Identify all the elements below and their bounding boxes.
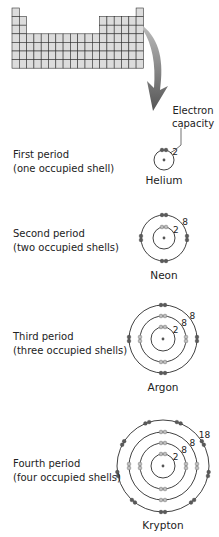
electron bbox=[163, 510, 167, 514]
nucleus-icon bbox=[163, 159, 166, 162]
electron bbox=[163, 498, 167, 502]
shell-capacity-label: 8 bbox=[181, 318, 187, 328]
shell-capacity-label: 18 bbox=[199, 430, 211, 440]
electron bbox=[164, 225, 168, 229]
shell-capacity-label: 2 bbox=[173, 225, 179, 235]
period-3-title: Third period bbox=[13, 330, 127, 344]
period-4-subtitle: (four occupied shells) bbox=[13, 471, 121, 485]
electron bbox=[159, 314, 163, 318]
electron bbox=[195, 335, 199, 339]
electron bbox=[139, 238, 143, 242]
electron bbox=[127, 339, 131, 343]
electron bbox=[159, 325, 163, 329]
electron bbox=[122, 439, 126, 443]
electron-capacity-label: Electron capacity bbox=[168, 104, 218, 130]
electron bbox=[163, 371, 167, 375]
electron bbox=[160, 148, 164, 152]
capacity-label-line1: Electron bbox=[168, 104, 218, 117]
electron bbox=[163, 452, 167, 456]
electron bbox=[179, 422, 183, 426]
helium-label: Helium bbox=[134, 174, 194, 186]
electron bbox=[189, 501, 193, 505]
capacity-label-line2: capacity bbox=[168, 117, 218, 130]
argon-label: Argon bbox=[133, 381, 193, 393]
electron bbox=[138, 462, 142, 466]
electron bbox=[207, 470, 211, 474]
electron bbox=[202, 443, 206, 447]
shell-capacity-label: 8 bbox=[190, 311, 196, 321]
electron bbox=[120, 443, 124, 447]
electron bbox=[159, 360, 163, 364]
electron bbox=[133, 501, 137, 505]
electron bbox=[163, 325, 167, 329]
period-3-label: Third period (three occupied shells) bbox=[13, 330, 127, 358]
shell-capacity-label: 2 bbox=[173, 325, 179, 335]
electron bbox=[192, 498, 196, 502]
electron bbox=[184, 466, 188, 470]
electron bbox=[185, 234, 189, 238]
electron bbox=[159, 498, 163, 502]
electron bbox=[195, 466, 199, 470]
period-2-subtitle: (two occupied shells) bbox=[13, 241, 119, 255]
shell-capacity-label: 8 bbox=[182, 217, 188, 227]
electron bbox=[159, 487, 163, 491]
electron bbox=[206, 474, 210, 478]
shell-capacity-label: 2 bbox=[173, 452, 179, 462]
electron bbox=[175, 420, 179, 424]
electron bbox=[147, 420, 151, 424]
period-4-title: Fourth period bbox=[13, 457, 121, 471]
electron bbox=[127, 462, 131, 466]
electron bbox=[185, 238, 189, 242]
electron bbox=[159, 441, 163, 445]
electron bbox=[130, 498, 134, 502]
electron bbox=[163, 487, 167, 491]
electron bbox=[159, 430, 163, 434]
period-3-subtitle: (three occupied shells) bbox=[13, 344, 127, 358]
electron bbox=[184, 339, 188, 343]
electron bbox=[138, 466, 142, 470]
electron bbox=[164, 213, 168, 217]
electron bbox=[138, 335, 142, 339]
shell-capacity-label: 8 bbox=[190, 438, 196, 448]
electron bbox=[159, 452, 163, 456]
period-1-subtitle: (one occupied shell) bbox=[13, 162, 114, 176]
electron bbox=[127, 335, 131, 339]
electron bbox=[159, 371, 163, 375]
electron bbox=[163, 441, 167, 445]
period-2-label: Second period (two occupied shells) bbox=[13, 227, 119, 255]
electron bbox=[184, 462, 188, 466]
nucleus-icon bbox=[162, 338, 165, 341]
electron bbox=[164, 148, 168, 152]
neon-label: Neon bbox=[134, 269, 194, 281]
period-4-label: Fourth period (four occupied shells) bbox=[13, 457, 121, 485]
electron bbox=[163, 314, 167, 318]
electron bbox=[195, 339, 199, 343]
nucleus-icon bbox=[163, 237, 166, 240]
atom-diagrams: 22828828818 bbox=[115, 147, 210, 514]
electron bbox=[184, 335, 188, 339]
electron bbox=[127, 466, 131, 470]
electron bbox=[163, 303, 167, 307]
argon-atom: 288 bbox=[127, 303, 199, 375]
electron bbox=[139, 234, 143, 238]
electron bbox=[138, 339, 142, 343]
nucleus-icon bbox=[162, 465, 165, 468]
electron bbox=[160, 225, 164, 229]
electron bbox=[143, 422, 147, 426]
krypton-atom: 28818 bbox=[115, 420, 210, 514]
helium-atom: 2 bbox=[154, 147, 178, 170]
period-1-label: First period (one occupied shell) bbox=[13, 148, 114, 176]
electron bbox=[159, 303, 163, 307]
electron bbox=[163, 360, 167, 364]
electron bbox=[195, 462, 199, 466]
electron bbox=[163, 430, 167, 434]
periodic-table bbox=[12, 8, 143, 68]
electron bbox=[160, 213, 164, 217]
electron bbox=[160, 259, 164, 263]
krypton-label: Krypton bbox=[133, 519, 193, 531]
period-2-title: Second period bbox=[13, 227, 119, 241]
curved-arrow-icon bbox=[143, 26, 168, 111]
shell-capacity-label: 2 bbox=[172, 147, 178, 157]
shell-capacity-label: 8 bbox=[181, 445, 187, 455]
electron bbox=[164, 259, 168, 263]
